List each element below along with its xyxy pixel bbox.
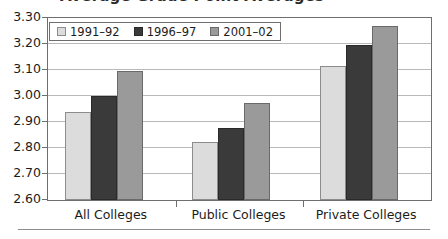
bar-group [176, 18, 304, 200]
y-axis-tick-label: 2.90 [0, 115, 41, 128]
legend-item: 2001–02 [210, 25, 273, 39]
bar-public-colleges-1991-92 [192, 142, 218, 201]
y-axis-tick-mark [42, 173, 47, 174]
legend-swatch-1991-92-icon [57, 27, 66, 36]
legend-label: 1996–97 [147, 25, 197, 39]
legend-label: 1991–92 [70, 25, 120, 39]
legend-swatch-1996-97-icon [134, 27, 143, 36]
y-axis-tick-mark [42, 69, 47, 70]
x-axis-tick-label: All Colleges [47, 207, 175, 222]
y-axis-tick-label: 2.60 [0, 193, 41, 206]
y-axis-tick-label: 3.00 [0, 89, 41, 102]
bar-group [303, 18, 431, 200]
bar-private-colleges-1991-92 [320, 66, 346, 200]
y-axis-tick-label: 2.70 [0, 167, 41, 180]
y-axis-tick-mark [42, 43, 47, 44]
bar-all-colleges-1991-92 [65, 112, 91, 200]
category-separator [303, 201, 304, 207]
y-axis-tick-mark [42, 199, 47, 200]
bar-private-colleges-1996-97 [346, 45, 372, 200]
y-axis-tick-label: 3.10 [0, 63, 41, 76]
legend-item: 1991–92 [57, 25, 120, 39]
bar-chart-figure: 3.303.203.103.002.902.802.702.60 All Col… [0, 0, 448, 239]
y-axis-tick-mark [42, 121, 47, 122]
legend-swatch-2001-02-icon [210, 27, 219, 36]
legend-item: 1996–97 [134, 25, 197, 39]
bar-public-colleges-2001-02 [244, 103, 270, 201]
x-axis: All CollegesPublic CollegesPrivate Colle… [47, 207, 432, 229]
bar-private-colleges-2001-02 [372, 26, 398, 200]
y-axis-tick-label: 3.20 [0, 37, 41, 50]
y-axis-tick-label: 3.30 [0, 11, 41, 24]
y-axis-tick-mark [42, 95, 47, 96]
bar-all-colleges-1996-97 [91, 96, 117, 200]
legend-label: 2001–02 [223, 25, 273, 39]
bottom-divider [18, 229, 430, 230]
y-axis-tick-label: 2.80 [0, 141, 41, 154]
category-separator [176, 201, 177, 207]
bars-layer [48, 18, 431, 200]
y-axis-tick-mark [42, 17, 47, 18]
x-axis-tick-label: Public Colleges [175, 207, 303, 222]
bar-all-colleges-2001-02 [117, 71, 143, 200]
x-axis-tick-label: Private Colleges [302, 207, 430, 222]
y-axis-tick-mark [42, 147, 47, 148]
chart-legend: 1991–921996–972001–02 [49, 22, 281, 41]
bar-public-colleges-1996-97 [218, 128, 244, 200]
bar-group [48, 18, 176, 200]
